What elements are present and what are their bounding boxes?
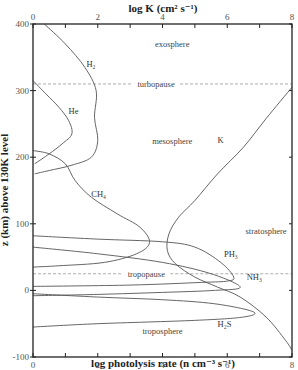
curve-label-H2S: H₂S <box>218 319 232 329</box>
y-tick-label: 300 <box>16 86 30 96</box>
top-tick-label: 8 <box>290 12 295 22</box>
curve-label-PH3: PH₃ <box>224 249 238 259</box>
turbopause-label: turbopause <box>137 79 175 89</box>
exosphere-region-label: exosphere <box>155 39 190 49</box>
curve-CH4 <box>33 151 150 268</box>
curve-PH3 <box>33 236 234 287</box>
bottom-tick-label: 2 <box>96 360 101 370</box>
y-tick-label: 100 <box>16 219 30 229</box>
y-tick-label: 200 <box>16 152 30 162</box>
curve-label-H2: H₂ <box>86 59 95 69</box>
curve-label-K: K <box>218 135 225 145</box>
top-tick-label: 6 <box>225 12 230 22</box>
curve-label-NH3: NH₃ <box>247 272 262 282</box>
y-tick-label: 0 <box>25 285 30 295</box>
curve-label-He: He <box>69 106 79 116</box>
tropopause-label: tropopause <box>128 269 166 279</box>
top-tick-label: 4 <box>160 12 165 22</box>
top-tick-label: 2 <box>96 12 101 22</box>
curve-K <box>167 87 292 350</box>
bottom-tick-label: 6 <box>225 360 230 370</box>
top-tick-label: 0 <box>31 12 36 22</box>
y-tick-label: -100 <box>13 352 30 362</box>
bottom-tick-label: 0 <box>31 360 36 370</box>
curve-H2 <box>35 24 98 174</box>
chart: log K (cm² s⁻¹) log photolysis rate (n c… <box>0 0 298 370</box>
troposphere-region-label: troposphere <box>142 326 182 336</box>
mesosphere-region-label: mesosphere <box>152 136 192 146</box>
y-axis-title: z (km) above 130K level <box>0 134 11 246</box>
stratosphere-region-label: stratosphere <box>246 226 287 236</box>
plot-frame <box>33 24 292 357</box>
y-tick-label: 400 <box>16 19 30 29</box>
curve-label-CH4: CH₄ <box>91 189 106 199</box>
bottom-tick-label: 8 <box>290 360 295 370</box>
bottom-tick-label: 4 <box>160 360 165 370</box>
